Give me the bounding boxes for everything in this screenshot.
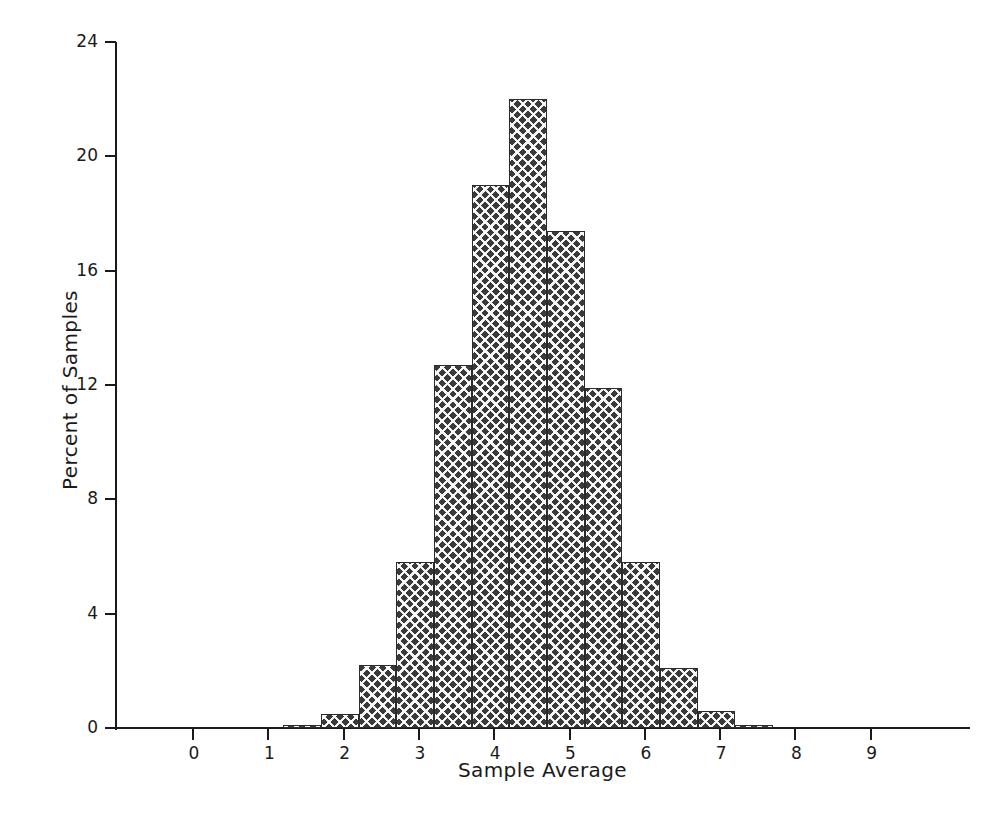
- histogram-bar: [698, 711, 736, 728]
- histogram-bar: [547, 231, 585, 728]
- histogram-bar: [735, 725, 773, 728]
- histogram-bar: [622, 562, 660, 728]
- histogram-bar: [472, 185, 510, 728]
- histogram-bar: [321, 714, 359, 728]
- histogram-bar: [585, 388, 623, 728]
- histogram-chart: Percent of Samples 04812162024 012345678…: [0, 0, 989, 823]
- histogram-bar: [359, 665, 397, 728]
- histogram-bar: [283, 725, 321, 728]
- histogram-bar: [509, 99, 547, 728]
- histogram-bar: [660, 668, 698, 728]
- histogram-bar: [434, 365, 472, 728]
- histogram-bars: [0, 0, 989, 823]
- histogram-bar: [396, 562, 434, 728]
- x-axis-title: Sample Average: [116, 758, 969, 782]
